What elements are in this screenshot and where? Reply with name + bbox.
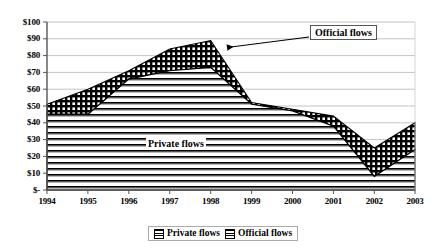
x-axis-label-1999: 1999 xyxy=(232,197,272,206)
y-axis-label-10: $10 xyxy=(2,169,40,178)
y-axis-label-90: $90 xyxy=(2,34,40,43)
y-axis-label-30: $30 xyxy=(2,135,40,144)
x-axis-label-2003: 2003 xyxy=(395,197,435,206)
x-axis-label-1995: 1995 xyxy=(68,197,108,206)
y-axis-label-70: $70 xyxy=(2,68,40,77)
y-axis-label-50: $50 xyxy=(2,102,40,111)
x-axis-label-1996: 1996 xyxy=(109,197,149,206)
legend-label-private-flows: Private flows xyxy=(167,228,220,239)
official-flows-callout: Official flows xyxy=(310,25,377,40)
y-axis-label-60: $60 xyxy=(2,85,40,94)
x-axis-label-2000: 2000 xyxy=(273,197,313,206)
x-axis-label-1997: 1997 xyxy=(150,197,190,206)
legend-item-private-flows: Private flows xyxy=(154,228,220,239)
y-axis-label-20: $20 xyxy=(2,152,40,161)
x-axis-label-2001: 2001 xyxy=(313,197,353,206)
horizontal-lines-swatch-icon xyxy=(154,229,164,239)
x-axis-label-1998: 1998 xyxy=(191,197,231,206)
stacked-area-chart: $100 $90 $80 $70 $60 $50 $40 $30 $20 $10… xyxy=(0,0,439,250)
legend-item-official-flows: Official flows xyxy=(225,228,292,239)
private-flows-inline-label: Private flows xyxy=(146,138,206,149)
y-axis-label-0: $- xyxy=(2,186,40,195)
x-axis-label-2002: 2002 xyxy=(354,197,394,206)
crosshatch-swatch-icon xyxy=(225,229,235,239)
x-axis-label-1994: 1994 xyxy=(27,197,67,206)
y-axis-label-80: $80 xyxy=(2,51,40,60)
y-axis-label-40: $40 xyxy=(2,118,40,127)
y-axis-label-100: $100 xyxy=(2,18,40,27)
legend-label-official-flows: Official flows xyxy=(238,228,292,239)
chart-legend: Private flows Official flows xyxy=(148,226,298,241)
